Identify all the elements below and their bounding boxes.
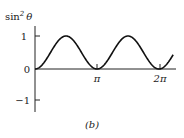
sin-squared-curve [35,36,173,69]
caption: (b) [85,119,99,130]
y-axis-label: sin2θ [5,10,32,22]
y-tick-m1: −1 [15,95,30,106]
x-tick-2pi: 2π [153,73,167,84]
y-tick-0: 0 [24,64,30,75]
y-tick-1: 1 [21,31,27,42]
x-tick-pi: π [93,73,101,84]
chart: sin2θ 1 0 −1 π 2π (b) [0,0,184,138]
